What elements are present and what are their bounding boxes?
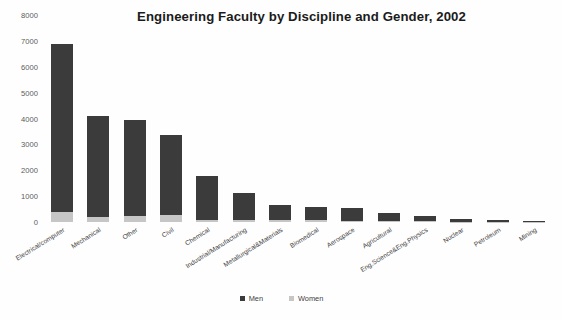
bar-stack[interactable] [233,193,255,222]
bar-segment-men[interactable] [51,44,73,212]
bar-group[interactable] [516,15,552,222]
bar-segment-women[interactable] [196,220,218,222]
bar-stack[interactable] [160,135,182,222]
bar-stack[interactable] [196,176,218,222]
y-axis-tick-label: 0 [34,218,38,227]
bar-group[interactable] [44,15,80,222]
y-axis-tick-label: 7000 [21,36,38,45]
bar-segment-women[interactable] [414,221,436,222]
bar-segment-men[interactable] [160,135,182,215]
x-axis-label-slot: Civil [153,224,189,286]
bar-segment-men[interactable] [124,120,146,215]
bar-segment-men[interactable] [341,208,363,222]
x-axis-tick-label: Other [121,226,139,241]
bar-stack[interactable] [523,221,545,222]
x-axis-label-slot: Nuclear [443,224,479,286]
bar-stack[interactable] [341,208,363,222]
y-axis-tick-label: 2000 [21,166,38,175]
x-axis-label-slot: Aerospace [334,224,370,286]
bar-segment-men[interactable] [305,207,327,220]
bar-segment-women[interactable] [51,212,73,222]
y-axis-tick-label: 4000 [21,114,38,123]
bar-group[interactable] [153,15,189,222]
legend-swatch-icon [240,296,245,301]
bar-group[interactable] [334,15,370,222]
x-axis-label-slot: Mechanical [80,224,116,286]
bar-stack[interactable] [450,219,472,222]
bar-segment-men[interactable] [196,176,218,220]
bar-segment-men[interactable] [378,213,400,221]
x-axis-tick-label: Civil [160,226,174,239]
y-axis-tick-label: 6000 [21,62,38,71]
bar-segment-men[interactable] [87,116,109,217]
bar-segment-women[interactable] [124,216,146,222]
y-axis-tick-label: 1000 [21,192,38,201]
bar-group[interactable] [479,15,515,222]
x-axis-label-slot: Biomedical [298,224,334,286]
bar-group[interactable] [80,15,116,222]
bar-stack[interactable] [487,220,509,222]
bar-segment-women[interactable] [305,220,327,222]
bar-segment-women[interactable] [341,221,363,222]
legend-item[interactable]: Men [240,294,263,303]
bar-group[interactable] [189,15,225,222]
bar-stack[interactable] [305,207,327,222]
legend-swatch-icon [289,296,294,301]
bar-segment-men[interactable] [269,205,291,221]
y-axis-tick-label: 5000 [21,88,38,97]
y-axis-tick-label: 8000 [21,11,38,20]
bar-group[interactable] [407,15,443,222]
bar-segment-women[interactable] [378,221,400,222]
plot-area: 800070006000500040003000200010000 [44,15,552,222]
bar-group[interactable] [371,15,407,222]
chart-container: Engineering Faculty by Discipline and Ge… [0,0,563,320]
bar-group[interactable] [443,15,479,222]
bar-segment-men[interactable] [233,193,255,220]
y-axis-tick-label: 3000 [21,140,38,149]
bar-group[interactable] [117,15,153,222]
bar-stack[interactable] [269,205,291,222]
x-axis-label-slot: Other [117,224,153,286]
x-axis-label-slot: Eng.Science&Eng.Physics [407,224,443,286]
bar-segment-women[interactable] [160,215,182,222]
x-axis-tick-label: Mining [517,226,537,242]
x-axis-tick-label: Electrical/computer [15,226,66,262]
chart-legend: MenWomen [0,294,563,303]
x-axis-tick-label: Nuclear [442,226,465,244]
bar-stack[interactable] [414,216,436,222]
bar-segment-women[interactable] [269,220,291,222]
bar-stack[interactable] [124,120,146,222]
bar-group[interactable] [225,15,261,222]
bar-stack[interactable] [51,44,73,222]
x-axis-label-slot: Petroleum [479,224,515,286]
bar-segment-women[interactable] [87,217,109,222]
bar-segment-women[interactable] [233,220,255,222]
bar-group[interactable] [298,15,334,222]
legend-item[interactable]: Women [289,294,323,303]
legend-label: Men [249,294,263,303]
legend-label: Women [298,294,323,303]
bar-group[interactable] [262,15,298,222]
x-axis-label-slot: Mining [516,224,552,286]
bar-stack[interactable] [378,213,400,222]
x-axis-label-slot: Electrical/computer [44,224,80,286]
bar-stack[interactable] [87,116,109,222]
x-axis-labels: Electrical/computerMechanicalOtherCivilC… [44,224,552,286]
bars-layer [44,15,552,222]
x-axis-label-slot: Metallurgical&Materials [262,224,298,286]
